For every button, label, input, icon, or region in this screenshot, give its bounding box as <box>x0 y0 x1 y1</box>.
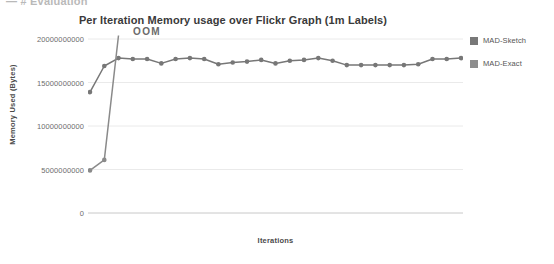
legend-label: MAD-Sketch <box>483 36 526 45</box>
data-point-mad-sketch <box>273 61 278 66</box>
chart-title: Per Iteration Memory usage over Flickr G… <box>0 14 466 26</box>
data-point-mad-sketch <box>444 57 449 62</box>
y-axis-tick-labels: 2000000000015000000000100000000005000000… <box>0 30 84 215</box>
data-point-mad-sketch <box>116 56 121 61</box>
data-point-mad-sketch <box>288 59 293 64</box>
data-point-mad-sketch <box>145 57 150 62</box>
data-point-mad-sketch <box>387 63 392 68</box>
data-point-mad-sketch <box>316 56 321 61</box>
chart-legend: MAD-SketchMAD-Exact <box>470 33 554 79</box>
data-point-mad-sketch <box>202 57 207 62</box>
data-point-mad-sketch <box>131 57 136 62</box>
data-point-mad-sketch <box>245 59 250 64</box>
legend-swatch-icon <box>470 60 478 68</box>
memory-usage-line-chart: Per Iteration Memory usage over Flickr G… <box>0 0 554 264</box>
data-point-mad-sketch <box>402 63 407 68</box>
series-line-mad-exact <box>90 36 119 171</box>
data-point-mad-sketch <box>102 64 107 69</box>
oom-annotation: OOM <box>133 26 161 37</box>
data-point-mad-sketch <box>430 57 435 62</box>
data-point-mad-sketch <box>302 58 307 63</box>
y-axis-tick-label: 10000000000 <box>4 122 84 131</box>
data-point-mad-sketch <box>459 56 463 61</box>
data-point-mad-sketch <box>230 60 235 65</box>
legend-item[interactable]: MAD-Sketch <box>470 33 554 48</box>
data-point-mad-sketch <box>359 63 364 68</box>
data-point-mad-sketch <box>416 62 421 67</box>
x-axis-title: Iterations <box>88 236 463 245</box>
data-point-mad-sketch <box>330 59 335 64</box>
y-axis-tick-label: 5000000000 <box>4 165 84 174</box>
legend-item[interactable]: MAD-Exact <box>470 56 554 71</box>
data-point-mad-sketch <box>159 61 164 66</box>
data-point-mad-sketch <box>345 63 350 68</box>
y-axis-tick-label: 15000000000 <box>4 78 84 87</box>
y-axis-tick-label: 0 <box>4 209 84 218</box>
data-point-mad-exact <box>102 158 107 163</box>
plot-area <box>88 30 463 215</box>
data-point-mad-sketch <box>173 57 178 62</box>
data-point-mad-sketch <box>188 56 193 61</box>
y-axis-tick-label: 20000000000 <box>4 35 84 44</box>
data-point-mad-sketch <box>259 58 264 63</box>
legend-swatch-icon <box>470 37 478 45</box>
series-layer <box>88 36 463 173</box>
data-point-mad-sketch <box>373 63 378 68</box>
data-point-mad-sketch <box>216 62 221 67</box>
legend-label: MAD-Exact <box>483 59 522 68</box>
